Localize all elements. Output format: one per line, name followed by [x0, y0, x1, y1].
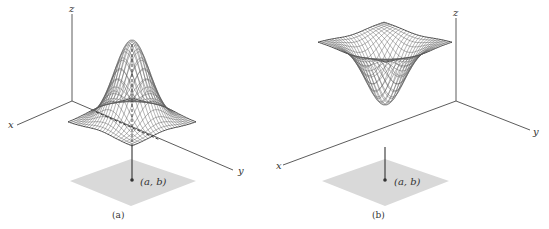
surface-well-mesh [318, 22, 452, 105]
domain-region-a [70, 159, 196, 206]
x-axis-b [283, 101, 456, 165]
x-label-b: x [276, 160, 282, 171]
x-label-a: x [8, 119, 14, 130]
y-label-b: y [532, 126, 539, 137]
point-ab-b [383, 178, 387, 182]
x-axis-a [17, 101, 72, 125]
z-label-b: z [452, 7, 459, 18]
point-label-b: (a, b) [394, 176, 421, 187]
z-label-a: z [68, 3, 75, 14]
caption-a: (a) [112, 210, 124, 220]
panel-a: z x y (a, b) (a) [8, 3, 244, 220]
figure-canvas: z x y (a, b) (a) z x y (a, b) (b) [0, 0, 549, 229]
point-label-a: (a, b) [140, 176, 167, 187]
panel-b: z x y (a, b) (b) [276, 7, 539, 220]
y-axis-b [456, 101, 530, 130]
surface-y-trace-a [96, 112, 160, 140]
point-ab-a [130, 178, 134, 182]
caption-b: (b) [372, 210, 385, 220]
y-label-a: y [237, 165, 244, 176]
